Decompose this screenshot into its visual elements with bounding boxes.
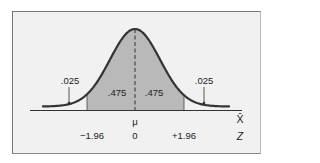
right-center-area-label: .475 [145,88,164,98]
z-tick-neg: −1.96 [80,131,104,141]
right-tail-area-label: .025 [195,76,214,86]
xbar-axis-label: X̄ [236,114,243,125]
z-axis-label: Z [237,131,243,142]
left-tail-area-label: .025 [61,76,80,86]
z-tick-zero: 0 [132,131,137,141]
left-center-area-label: .475 [108,88,127,98]
left-tail-pointer-dot [68,102,71,105]
right-tail-pointer-dot [203,102,206,105]
mean-label: μ [132,117,137,127]
z-tick-pos: +1.96 [172,131,196,141]
